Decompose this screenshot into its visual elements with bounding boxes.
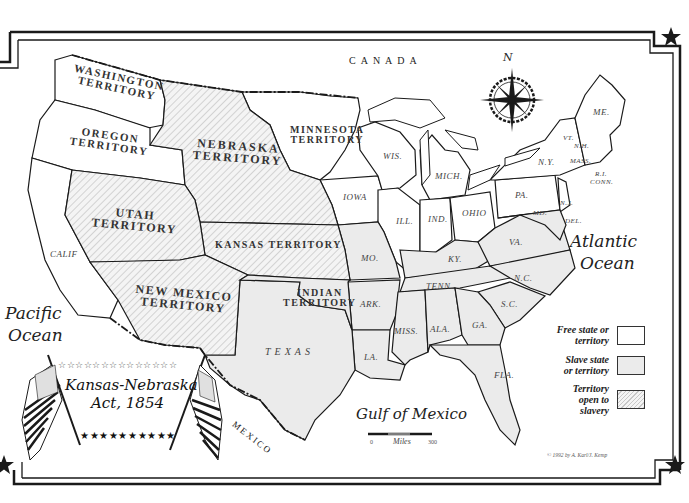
label-del: DEL. bbox=[565, 218, 582, 225]
label-atlantic-ocean-2: Ocean bbox=[580, 255, 635, 272]
legend-swatch-free bbox=[617, 326, 645, 345]
label-ohio: OHIO bbox=[462, 209, 487, 218]
label-canada: CANADA bbox=[349, 56, 422, 66]
label-ri: R.I. bbox=[595, 171, 607, 178]
label-la: LA. bbox=[364, 353, 378, 362]
label-va: VA. bbox=[509, 238, 523, 247]
label-ind: IND. bbox=[428, 215, 448, 224]
star-icon-top-right bbox=[661, 27, 681, 46]
label-conn: CONN. bbox=[590, 179, 613, 186]
label-sc: S.C. bbox=[501, 300, 518, 309]
compass-north-label: N bbox=[503, 52, 513, 63]
label-vt: VT. bbox=[563, 135, 574, 142]
filled-stars-row: ★★★★★★★★★★ bbox=[80, 431, 176, 441]
label-pa: PA. bbox=[515, 191, 529, 200]
label-iowa: IOWA bbox=[343, 193, 367, 202]
map-credit: © 1992 by A. Karl/J. Kemp bbox=[547, 453, 607, 459]
label-calif: CALIF bbox=[50, 250, 78, 259]
hollow-stars-row: ☆☆☆☆☆☆☆☆☆☆☆☆☆☆ bbox=[58, 361, 177, 370]
legend-swatch-slave bbox=[617, 356, 645, 375]
label-pacific-ocean-2: Ocean bbox=[8, 327, 63, 344]
label-nj: N.J. bbox=[560, 200, 573, 207]
label-ark: ARK. bbox=[360, 300, 381, 309]
label-pacific-ocean-1: Pacific bbox=[5, 305, 62, 322]
label-kansas-territory: KANSAS TERRITORY bbox=[215, 240, 342, 250]
legend-item-slave: Slave stateor territory bbox=[531, 354, 645, 376]
label-ala: ALA. bbox=[430, 325, 450, 334]
label-ky: KY. bbox=[448, 255, 462, 264]
label-mich: MICH. bbox=[435, 172, 463, 181]
label-md: MD. bbox=[533, 210, 547, 217]
label-tenn: TENN. bbox=[426, 282, 453, 291]
label-atlantic-ocean-1: Atlantic bbox=[570, 233, 637, 250]
label-indian-territory: INDIANTERRITORY bbox=[283, 288, 357, 308]
label-nc: N.C. bbox=[514, 274, 533, 283]
label-nh: N.H. bbox=[574, 143, 589, 150]
label-wis: WIS. bbox=[383, 152, 402, 161]
label-mass: MASS. bbox=[570, 158, 591, 165]
legend-swatch-open-to-slavery bbox=[617, 390, 645, 409]
label-ga: GA. bbox=[472, 321, 488, 330]
label-me: ME. bbox=[593, 108, 610, 117]
label-ill: ILL. bbox=[396, 217, 413, 226]
legend-item-free: Free state orterritory bbox=[531, 324, 645, 346]
map-title-line2: Act, 1854 bbox=[65, 396, 190, 411]
label-fla: FLA. bbox=[494, 371, 514, 380]
scale-start: 0 bbox=[370, 439, 373, 445]
label-texas: TEXAS bbox=[265, 347, 314, 357]
star-icon-bottom-left bbox=[0, 455, 14, 474]
legend-item-open-to-slavery: Territoryopen toslavery bbox=[531, 383, 645, 416]
label-ny: N.Y. bbox=[538, 158, 555, 167]
label-nebraska-territory: NEBRASKATERRITORY bbox=[192, 137, 284, 167]
label-miss: MISS. bbox=[394, 327, 418, 336]
map-title-line1: Kansas-Nebraska bbox=[65, 378, 190, 393]
label-gulf-of-mexico: Gulf of Mexico bbox=[356, 407, 467, 422]
label-minnesota-territory: MINNESOTATERRITORY bbox=[290, 125, 364, 145]
scale-label: Miles bbox=[393, 438, 411, 446]
scale-end: 300 bbox=[428, 439, 437, 445]
label-mo: MO. bbox=[361, 254, 379, 263]
